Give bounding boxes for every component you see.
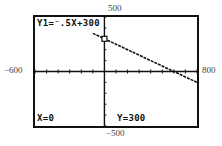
equation-label: Y1=⁻.5X+300 bbox=[37, 18, 100, 28]
window-xmin-label: −600 bbox=[4, 65, 23, 75]
window-xmax-label: 800 bbox=[202, 65, 216, 75]
trace-y-value: Y=300 bbox=[117, 113, 146, 123]
graph-plot bbox=[35, 17, 197, 126]
window-ymax-label: 500 bbox=[108, 3, 122, 13]
window-ymin-label: −500 bbox=[106, 128, 125, 138]
trace-x-value: X=0 bbox=[37, 113, 54, 123]
calculator-screen: Y1=⁻.5X+300 X=0 Y=300 bbox=[33, 15, 199, 128]
trace-cursor bbox=[102, 36, 107, 41]
function-line-y1 bbox=[93, 33, 197, 82]
